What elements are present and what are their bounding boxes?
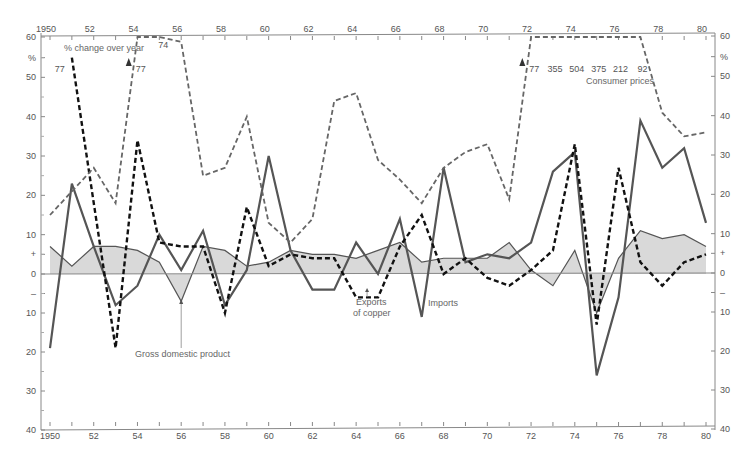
y-tick-label-left: 20 [26, 347, 36, 357]
x-tick-label-top: 52 [85, 24, 95, 34]
x-tick-label-bottom: 1950 [40, 431, 60, 441]
y-tick-label-left: 10 [26, 230, 36, 240]
x-tick-label-bottom: 58 [220, 431, 230, 441]
x-tick-label-top: 62 [303, 24, 313, 34]
x-tick-label-bottom: 62 [307, 431, 317, 441]
offscale-arrow-icon [126, 58, 132, 66]
y-tick-label-left: 30 [26, 151, 36, 161]
exports-label: Exports [356, 297, 387, 307]
y-tick-label-right: 10 [720, 229, 730, 239]
x-tick-label-top: 80 [697, 24, 707, 34]
exports-label-line2: of copper [353, 308, 391, 318]
x-tick-label-bottom: 70 [482, 431, 492, 441]
x-tick-label-bottom: 76 [614, 431, 624, 441]
offscale-value-label: 212 [613, 64, 628, 74]
x-tick-label-top: 56 [172, 24, 182, 34]
x-tick-label-bottom: 74 [570, 431, 580, 441]
y-tick-label-right: 10 [720, 307, 730, 317]
bottom-axis [41, 426, 715, 430]
y-tick-label-right: 20 [720, 346, 730, 356]
exports-pointer-arrow-icon [365, 288, 369, 292]
gdp-label: Gross domestic product [135, 349, 231, 359]
y-tick-label-left: % [28, 53, 36, 63]
x-tick-label-top: 78 [653, 24, 663, 34]
y-tick-label-right: 0 [720, 268, 725, 278]
x-tick-label-top: 1950 [36, 24, 56, 34]
offscale-value-label: 74 [158, 40, 168, 50]
x-tick-label-bottom: 66 [395, 431, 405, 441]
y-tick-label-right: 40 [720, 424, 730, 434]
y-tick-label-right: 20 [720, 189, 730, 199]
y-tick-label-left: 0 [31, 269, 36, 279]
offscale-value-label: 92 [637, 64, 647, 74]
axes-layer: 6060%%50504040303020201010++00––10102020… [26, 24, 730, 441]
series-consumer-prices [50, 37, 706, 243]
imports-label: Imports [428, 298, 459, 308]
x-tick-label-bottom: 60 [264, 431, 274, 441]
y-tick-label-left: 40 [26, 112, 36, 122]
y-tick-label-left: 10 [26, 308, 36, 318]
offscale-value-label: 504 [569, 64, 584, 74]
chart-canvas: 6060%%50504040303020201010++00––10102020… [0, 0, 738, 459]
y-tick-label-left: 20 [26, 190, 36, 200]
y-tick-label-left: + [31, 249, 36, 259]
y-axis-title: % change over year [64, 43, 144, 53]
x-tick-label-bottom: 68 [439, 431, 449, 441]
y-tick-label-right: 60 [720, 31, 730, 41]
x-tick-label-bottom: 64 [351, 431, 361, 441]
x-tick-label-bottom: 72 [526, 431, 536, 441]
y-tick-label-left: – [31, 289, 36, 299]
offscale-value-label: 77 [529, 64, 539, 74]
y-tick-label-right: 30 [720, 385, 730, 395]
x-tick-label-top: 66 [391, 24, 401, 34]
offscale-value-label: 355 [547, 64, 562, 74]
x-tick-label-top: 64 [347, 24, 357, 34]
x-tick-label-bottom: 52 [89, 431, 99, 441]
y-tick-label-left: 60 [26, 32, 36, 42]
offscale-arrow-icon [519, 58, 525, 66]
y-tick-label-right: 30 [720, 150, 730, 160]
x-tick-label-top: 70 [478, 24, 488, 34]
offscale-value-label: 375 [591, 64, 606, 74]
x-tick-label-top: 76 [610, 24, 620, 34]
offscale-value-label: 77 [136, 64, 146, 74]
series-lines-layer [50, 37, 706, 376]
x-tick-label-top: 68 [435, 24, 445, 34]
y-tick-label-left: 50 [26, 72, 36, 82]
consumer-prices-label: Consumer prices [586, 76, 655, 86]
x-tick-label-bottom: 54 [132, 431, 142, 441]
y-tick-label-right: % [720, 52, 728, 62]
series-exports-of-copper [72, 58, 706, 348]
y-tick-label-right: + [720, 248, 725, 258]
y-tick-label-left: 40 [26, 425, 36, 435]
x-tick-label-top: 58 [216, 24, 226, 34]
y-tick-label-right: 40 [720, 111, 730, 121]
y-tick-label-right: 50 [720, 71, 730, 81]
x-tick-label-top: 60 [260, 24, 270, 34]
x-tick-label-top: 54 [128, 24, 138, 34]
x-tick-label-top: 74 [566, 24, 576, 34]
x-tick-label-bottom: 56 [176, 431, 186, 441]
y-tick-label-right: – [720, 288, 725, 298]
x-tick-label-bottom: 80 [701, 431, 711, 441]
x-tick-label-bottom: 78 [657, 431, 667, 441]
x-tick-label-top: 72 [522, 24, 532, 34]
y-tick-label-left: 30 [26, 386, 36, 396]
offscale-value-label: 77 [55, 64, 65, 74]
